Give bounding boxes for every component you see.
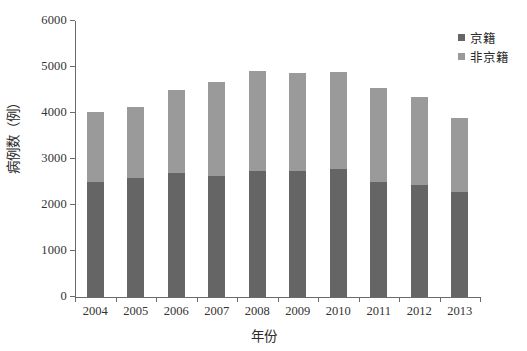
plot-area <box>75 21 480 297</box>
x-tick-label: 2011 <box>359 304 399 319</box>
bar-stack[interactable] <box>87 112 104 297</box>
bar-stack[interactable] <box>411 97 428 297</box>
x-tick-label: 2005 <box>116 304 156 319</box>
legend-label: 非京籍 <box>470 47 509 66</box>
bar-segment-feijingji[interactable] <box>168 90 185 172</box>
bar-stack[interactable] <box>208 82 225 297</box>
x-tick-mark <box>399 297 400 302</box>
x-tick-label: 2007 <box>197 304 237 319</box>
x-tick-mark <box>480 297 481 302</box>
bar-segment-jingji[interactable] <box>330 169 347 297</box>
x-tick-mark <box>116 297 117 302</box>
x-tick-mark <box>75 297 76 302</box>
bar-segment-feijingji[interactable] <box>208 82 225 175</box>
bar-segment-jingji[interactable] <box>411 185 428 297</box>
bar-stack[interactable] <box>127 107 144 297</box>
bar-segment-jingji[interactable] <box>370 182 387 297</box>
bar-segment-feijingji[interactable] <box>370 88 387 182</box>
bar-segment-jingji[interactable] <box>249 171 266 298</box>
bar-stack[interactable] <box>330 72 347 297</box>
bar-stack[interactable] <box>168 90 185 297</box>
bar-stack[interactable] <box>249 71 266 297</box>
legend-item[interactable]: 非京籍 <box>458 47 509 66</box>
bar-stack[interactable] <box>370 88 387 297</box>
x-tick-mark <box>440 297 441 302</box>
x-tick-mark <box>278 297 279 302</box>
x-tick-label: 2013 <box>440 304 480 319</box>
bar-stack[interactable] <box>451 118 468 297</box>
x-tick-label: 2004 <box>75 304 115 319</box>
x-tick-mark <box>156 297 157 302</box>
bar-segment-feijingji[interactable] <box>411 97 428 184</box>
y-tick-label: 4000 <box>41 104 67 121</box>
legend-swatch-icon <box>458 53 465 60</box>
legend: 京籍非京籍 <box>458 28 509 66</box>
bar-segment-feijingji[interactable] <box>451 118 468 192</box>
bar-segment-jingji[interactable] <box>168 173 185 297</box>
y-axis-title: 病例数（例） <box>2 65 22 205</box>
bar-segment-jingji[interactable] <box>289 171 306 298</box>
legend-label: 京籍 <box>470 28 496 47</box>
x-tick-mark <box>318 297 319 302</box>
chart-container: 0100020003000400050006000 20042005200620… <box>0 0 527 351</box>
x-axis-title: 年份 <box>0 325 527 345</box>
y-tick-label: 5000 <box>41 58 67 75</box>
bar-stack[interactable] <box>289 73 306 297</box>
y-tick-label: 0 <box>61 288 67 305</box>
y-tick-label: 3000 <box>41 150 67 167</box>
y-tick-label: 1000 <box>41 242 67 259</box>
y-tick-label: 6000 <box>41 12 67 29</box>
bar-segment-feijingji[interactable] <box>289 73 306 170</box>
x-tick-label: 2009 <box>278 304 318 319</box>
x-tick-label: 2010 <box>318 304 358 319</box>
bar-segment-jingji[interactable] <box>208 176 225 297</box>
x-tick-mark <box>237 297 238 302</box>
x-tick-mark <box>197 297 198 302</box>
bar-segment-feijingji[interactable] <box>87 112 104 181</box>
legend-swatch-icon <box>458 34 465 41</box>
legend-item[interactable]: 京籍 <box>458 28 509 47</box>
bar-segment-feijingji[interactable] <box>249 71 266 171</box>
x-tick-label: 2012 <box>399 304 439 319</box>
bar-segment-jingji[interactable] <box>127 178 144 297</box>
y-tick-label: 2000 <box>41 196 67 213</box>
x-tick-label: 2006 <box>156 304 196 319</box>
bar-segment-jingji[interactable] <box>87 182 104 297</box>
x-tick-mark <box>359 297 360 302</box>
x-tick-label: 2008 <box>237 304 277 319</box>
bar-segment-jingji[interactable] <box>451 192 468 297</box>
bar-segment-feijingji[interactable] <box>127 107 144 178</box>
bar-segment-feijingji[interactable] <box>330 72 347 170</box>
